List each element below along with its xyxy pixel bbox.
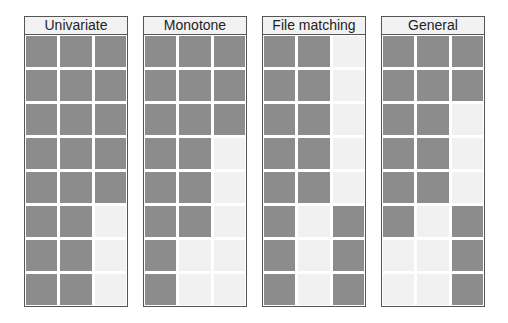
missing-cell — [179, 274, 210, 305]
missing-cell — [214, 206, 245, 237]
pattern-grid — [382, 35, 484, 306]
missing-cell — [214, 138, 245, 169]
observed-cell — [298, 36, 329, 67]
observed-cell — [264, 70, 295, 101]
observed-cell — [26, 206, 57, 237]
observed-cell — [264, 104, 295, 135]
missing-cell — [95, 240, 126, 271]
observed-cell — [264, 206, 295, 237]
panel-title: General — [382, 17, 484, 35]
observed-cell — [333, 206, 364, 237]
observed-cell — [60, 172, 91, 203]
observed-cell — [95, 36, 126, 67]
missing-cell — [452, 138, 483, 169]
observed-cell — [452, 240, 483, 271]
pattern-grid — [263, 35, 365, 306]
missing-cell — [298, 274, 329, 305]
missing-cell — [452, 104, 483, 135]
observed-cell — [383, 206, 414, 237]
observed-cell — [179, 138, 210, 169]
observed-cell — [383, 138, 414, 169]
observed-cell — [452, 206, 483, 237]
observed-cell — [417, 36, 448, 67]
observed-cell — [417, 138, 448, 169]
observed-cell — [26, 70, 57, 101]
observed-cell — [145, 240, 176, 271]
missing-cell — [333, 36, 364, 67]
observed-cell — [452, 36, 483, 67]
observed-cell — [179, 206, 210, 237]
observed-cell — [60, 240, 91, 271]
observed-cell — [264, 240, 295, 271]
observed-cell — [214, 36, 245, 67]
missing-cell — [383, 274, 414, 305]
observed-cell — [95, 172, 126, 203]
panel-file-matching: File matching — [262, 16, 366, 307]
observed-cell — [298, 138, 329, 169]
missing-cell — [95, 274, 126, 305]
missing-cell — [417, 274, 448, 305]
observed-cell — [60, 274, 91, 305]
observed-cell — [60, 104, 91, 135]
observed-cell — [145, 206, 176, 237]
missing-cell — [214, 172, 245, 203]
observed-cell — [145, 138, 176, 169]
missing-cell — [333, 104, 364, 135]
observed-cell — [145, 172, 176, 203]
observed-cell — [214, 104, 245, 135]
observed-cell — [179, 104, 210, 135]
observed-cell — [179, 172, 210, 203]
observed-cell — [60, 206, 91, 237]
observed-cell — [145, 70, 176, 101]
observed-cell — [145, 36, 176, 67]
missing-cell — [417, 206, 448, 237]
observed-cell — [417, 172, 448, 203]
observed-cell — [417, 104, 448, 135]
missing-cell — [214, 240, 245, 271]
observed-cell — [145, 274, 176, 305]
observed-cell — [383, 36, 414, 67]
observed-cell — [417, 70, 448, 101]
observed-cell — [26, 104, 57, 135]
observed-cell — [264, 138, 295, 169]
pattern-grid — [144, 35, 246, 306]
missing-cell — [417, 240, 448, 271]
observed-cell — [452, 70, 483, 101]
observed-cell — [95, 104, 126, 135]
observed-cell — [383, 172, 414, 203]
observed-cell — [264, 172, 295, 203]
observed-cell — [60, 36, 91, 67]
observed-cell — [26, 138, 57, 169]
pattern-grid — [25, 35, 127, 306]
observed-cell — [60, 70, 91, 101]
observed-cell — [214, 70, 245, 101]
observed-cell — [26, 274, 57, 305]
missing-cell — [333, 138, 364, 169]
panel-general: General — [381, 16, 485, 307]
observed-cell — [452, 274, 483, 305]
observed-cell — [26, 36, 57, 67]
panel-title: Univariate — [25, 17, 127, 35]
observed-cell — [95, 138, 126, 169]
panel-title: Monotone — [144, 17, 246, 35]
observed-cell — [179, 36, 210, 67]
observed-cell — [179, 70, 210, 101]
observed-cell — [26, 240, 57, 271]
observed-cell — [26, 172, 57, 203]
panel-univariate: Univariate — [24, 16, 128, 307]
panel-title: File matching — [263, 17, 365, 35]
observed-cell — [145, 104, 176, 135]
observed-cell — [383, 104, 414, 135]
observed-cell — [264, 36, 295, 67]
missing-cell — [333, 172, 364, 203]
observed-cell — [333, 274, 364, 305]
observed-cell — [95, 70, 126, 101]
missing-cell — [452, 172, 483, 203]
missing-cell — [179, 240, 210, 271]
missing-cell — [95, 206, 126, 237]
observed-cell — [298, 172, 329, 203]
observed-cell — [264, 274, 295, 305]
missing-cell — [383, 240, 414, 271]
missing-cell — [298, 206, 329, 237]
observed-cell — [333, 240, 364, 271]
